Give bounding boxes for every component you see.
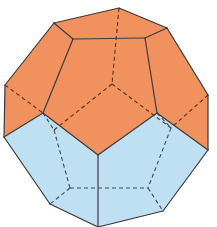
top-cap-face [54,8,167,39]
dodecahedron-diagram [0,0,217,227]
